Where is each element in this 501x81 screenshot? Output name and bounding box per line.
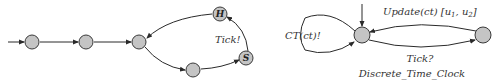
state-node bbox=[79, 35, 93, 49]
edge-h-n3 bbox=[147, 14, 212, 38]
clock-state-second bbox=[475, 27, 491, 43]
edge-tick bbox=[369, 40, 475, 47]
node-label-s: S bbox=[243, 53, 250, 63]
tick-query-label: Tick? bbox=[407, 53, 435, 64]
state-node bbox=[186, 63, 200, 77]
clock-state-initial bbox=[354, 27, 370, 43]
automaton-name: Discrete_Time_Clock bbox=[358, 68, 465, 80]
diagram-canvas: S H Tick! CT(ct)! Update(ct) [u1, u2] Ti… bbox=[0, 0, 501, 81]
state-node bbox=[132, 35, 146, 49]
node-label-h: H bbox=[215, 9, 225, 19]
ct-label: CT(ct)! bbox=[285, 30, 321, 41]
edge-n3-n4 bbox=[145, 47, 185, 70]
right-automaton: CT(ct)! Update(ct) [u1, u2] Tick? Discre… bbox=[285, 4, 491, 80]
left-automaton: S H Tick! bbox=[8, 7, 253, 77]
update-label: Update(ct) [u1, u2] bbox=[383, 6, 477, 19]
state-node bbox=[25, 35, 39, 49]
edge-n4-s bbox=[201, 60, 239, 69]
edge-update bbox=[370, 25, 476, 32]
tick-label: Tick! bbox=[215, 34, 241, 45]
